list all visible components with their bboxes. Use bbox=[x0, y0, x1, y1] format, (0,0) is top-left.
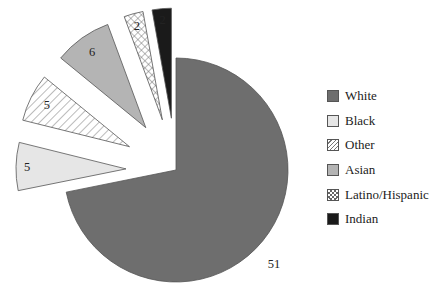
legend-item-other: Other bbox=[327, 133, 429, 158]
legend-swatch-white bbox=[327, 90, 339, 102]
legend-label: Indian bbox=[345, 211, 378, 227]
legend-label: Black bbox=[345, 113, 375, 129]
legend-item-asian: Asian bbox=[327, 158, 429, 183]
legend-swatch-asian bbox=[327, 164, 339, 176]
slice-label-other: 5 bbox=[44, 98, 50, 112]
slice-label-black: 5 bbox=[24, 160, 30, 174]
legend-label: Asian bbox=[345, 162, 375, 178]
legend-label: Latino/Hispanic bbox=[345, 187, 429, 203]
legend: White Black Other Asian Latino/Hispanic … bbox=[327, 84, 429, 232]
legend-swatch-indian bbox=[327, 213, 339, 225]
legend-label: White bbox=[345, 88, 377, 104]
legend-label: Other bbox=[345, 137, 375, 153]
legend-item-white: White bbox=[327, 84, 429, 109]
legend-swatch-other bbox=[327, 139, 339, 151]
legend-item-black: Black bbox=[327, 109, 429, 134]
legend-item-latino: Latino/Hispanic bbox=[327, 182, 429, 207]
slice-label-asian: 6 bbox=[89, 45, 95, 59]
slice-label-latino: 2 bbox=[134, 19, 140, 33]
legend-swatch-latino bbox=[327, 189, 339, 201]
slice-label-indian: 2 bbox=[160, 13, 166, 27]
slice-label-white: 51 bbox=[268, 257, 281, 271]
legend-swatch-black bbox=[327, 115, 339, 127]
legend-item-indian: Indian bbox=[327, 207, 429, 232]
